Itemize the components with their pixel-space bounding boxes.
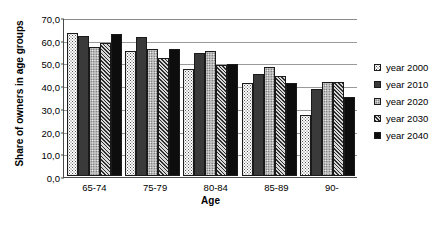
bar xyxy=(147,49,158,176)
bar xyxy=(333,82,344,176)
bar xyxy=(242,83,253,176)
bar-group xyxy=(183,19,238,176)
bar xyxy=(111,34,122,176)
bar xyxy=(286,83,297,176)
x-axis-tick-label: 65-74 xyxy=(82,182,106,193)
bar xyxy=(136,37,147,176)
y-axis-tick-mark xyxy=(61,178,64,179)
y-axis-tick-label: 30,0 xyxy=(42,104,61,115)
bar xyxy=(264,67,275,176)
bar xyxy=(78,36,89,176)
y-axis-tick-label: 40,0 xyxy=(42,82,61,93)
legend-item-year-2000[interactable]: year 2000 xyxy=(374,59,447,76)
legend-swatch-icon xyxy=(374,98,381,105)
bar xyxy=(322,82,333,176)
bar xyxy=(169,49,180,176)
legend: year 2000year 2010year 2020year 2030year… xyxy=(374,59,447,144)
x-axis-tick-labels: 65-7475-7980-8485-8990- xyxy=(64,182,357,193)
bar xyxy=(253,74,264,176)
x-axis-tick-label: 75-79 xyxy=(143,182,167,193)
bar xyxy=(194,53,205,176)
y-axis-tick-mark xyxy=(61,64,64,65)
bar xyxy=(67,33,78,176)
bar xyxy=(158,58,169,176)
legend-label: year 2000 xyxy=(386,62,428,73)
bar-group xyxy=(300,19,355,176)
y-axis-tick-label: 0,0 xyxy=(47,173,60,184)
bar xyxy=(311,89,322,176)
bar-chart: Share of owners in age groups 0,010,020,… xyxy=(0,0,447,226)
legend-label: year 2040 xyxy=(386,130,428,141)
bar-group xyxy=(125,19,180,176)
legend-swatch-icon xyxy=(374,115,381,122)
bar xyxy=(205,51,216,176)
y-axis-tick-label: 20,0 xyxy=(42,127,61,138)
bar xyxy=(227,64,238,176)
x-axis-tick-label: 90- xyxy=(325,182,339,193)
y-axis-tick-label: 60,0 xyxy=(42,36,61,47)
plot-area: 0,010,020,030,040,050,060,070,0 xyxy=(63,19,357,178)
y-axis-tick-mark xyxy=(61,87,64,88)
bar xyxy=(183,69,194,176)
bar xyxy=(275,76,286,176)
y-axis-title: Share of owners in age groups xyxy=(14,9,25,179)
legend-swatch-icon xyxy=(374,64,381,71)
legend-item-year-2020[interactable]: year 2020 xyxy=(374,93,447,110)
legend-swatch-icon xyxy=(374,81,381,88)
y-axis-tick-mark xyxy=(61,41,64,42)
legend-item-year-2040[interactable]: year 2040 xyxy=(374,127,447,144)
legend-swatch-icon xyxy=(374,132,381,139)
y-axis-tick-label: 70,0 xyxy=(42,14,61,25)
bar xyxy=(89,47,100,176)
bar xyxy=(300,115,311,176)
legend-item-year-2030[interactable]: year 2030 xyxy=(374,110,447,127)
y-axis-tick-label: 10,0 xyxy=(42,150,61,161)
legend-label: year 2010 xyxy=(386,79,428,90)
bar xyxy=(344,97,355,177)
legend-item-year-2010[interactable]: year 2010 xyxy=(374,76,447,93)
legend-label: year 2020 xyxy=(386,96,428,107)
y-axis-tick-mark xyxy=(61,19,64,20)
bar-group xyxy=(67,19,122,176)
y-axis-tick-label: 50,0 xyxy=(42,59,61,70)
bar-groups xyxy=(65,19,357,176)
y-axis-tick-mark xyxy=(61,109,64,110)
x-axis-title: Age xyxy=(64,195,357,206)
legend-label: year 2030 xyxy=(386,113,428,124)
bar xyxy=(216,65,227,176)
bar xyxy=(125,51,136,176)
y-axis-tick-mark xyxy=(61,155,64,156)
x-axis-tick-label: 80-84 xyxy=(204,182,228,193)
y-axis-tick-mark xyxy=(61,132,64,133)
bar-group xyxy=(242,19,297,176)
bar xyxy=(100,43,111,176)
x-axis-tick-label: 85-89 xyxy=(264,182,288,193)
